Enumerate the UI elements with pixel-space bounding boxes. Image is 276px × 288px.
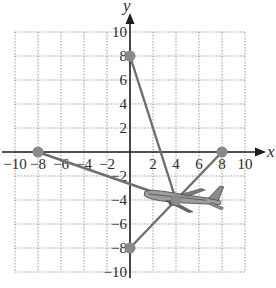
y-tick-label: −6: [111, 216, 127, 232]
y-tick-label: 4: [120, 96, 128, 112]
x-tick-label: 8: [218, 156, 226, 172]
data-point: [217, 147, 228, 158]
x-axis-label: x: [266, 142, 275, 161]
y-tick-label: 2: [120, 120, 128, 136]
x-tick-label: −10: [3, 156, 26, 172]
data-point: [171, 195, 182, 206]
x-tick-label: 10: [238, 156, 253, 172]
x-tick-label: −8: [30, 156, 46, 172]
airplane-icon: [143, 179, 226, 216]
coordinate-plane: x y −10−8−6−4−2246810108642−2−4−6−8−10: [0, 0, 276, 288]
x-axis-arrow-icon: [255, 148, 266, 157]
x-tick-label: 4: [172, 156, 180, 172]
y-tick-label: −4: [111, 192, 127, 208]
data-point: [125, 243, 136, 254]
y-tick-label: 10: [112, 24, 127, 40]
data-point: [33, 147, 44, 158]
x-tick-label: 6: [195, 156, 203, 172]
x-tick-label: 2: [149, 156, 157, 172]
y-tick-label: −10: [104, 264, 127, 280]
data-point: [125, 51, 136, 62]
y-tick-label: 6: [120, 72, 128, 88]
y-axis-label: y: [121, 0, 131, 15]
axes: x y: [2, 0, 275, 278]
